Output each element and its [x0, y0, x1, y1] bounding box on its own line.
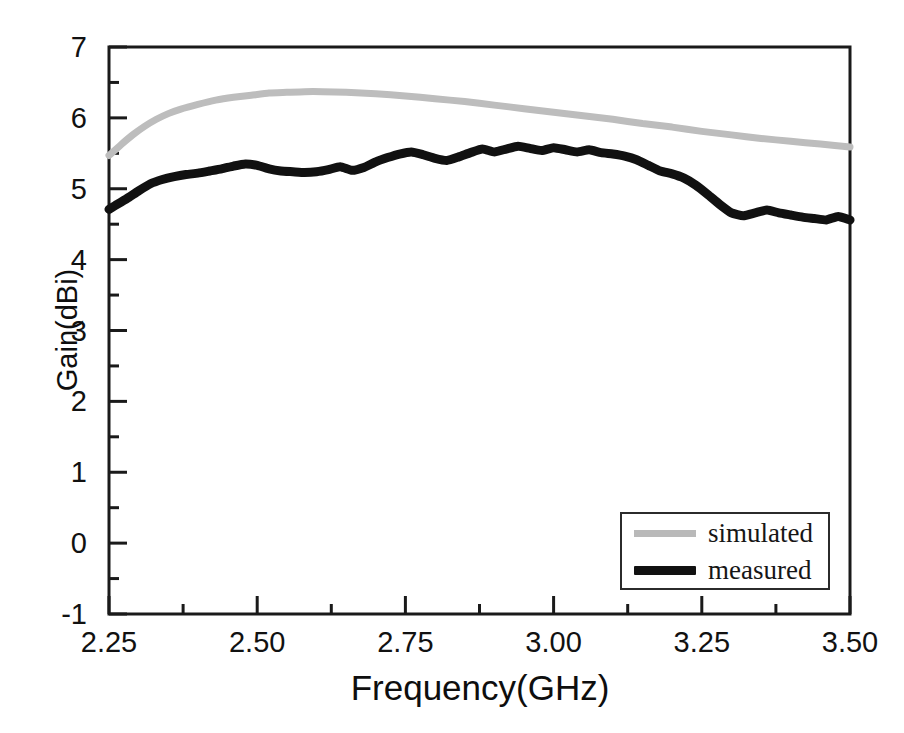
y-tick-label: 6: [0, 101, 87, 134]
x-tick-label: 2.50: [229, 626, 285, 659]
y-tick-label: 7: [0, 31, 87, 64]
plot-canvas: [0, 0, 904, 733]
x-tick-label: 3.50: [822, 626, 878, 659]
y-axis-title: Gain(dBi): [51, 269, 84, 392]
x-axis-title: Frequency(GHz): [351, 668, 610, 708]
legend-item-measured: measured: [622, 551, 828, 590]
legend-label-simulated: simulated: [708, 520, 813, 547]
y-tick-label: 1: [0, 456, 87, 489]
x-tick-label: 3.00: [525, 626, 581, 659]
gain-vs-frequency-chart: 76543210-1 2.252.502.753.003.253.50 Gain…: [0, 0, 904, 733]
chart-legend: simulated measured: [620, 512, 830, 590]
legend-item-simulated: simulated: [622, 514, 828, 553]
black-line-swatch: [634, 566, 696, 575]
gray-line-swatch: [634, 530, 696, 537]
x-tick-label: 3.25: [674, 626, 730, 659]
y-tick-label: 0: [0, 527, 87, 560]
y-tick-label: -1: [0, 598, 87, 631]
legend-label-measured: measured: [708, 557, 811, 584]
y-tick-label: 5: [0, 172, 87, 205]
x-tick-label: 2.25: [81, 626, 137, 659]
x-tick-label: 2.75: [377, 626, 433, 659]
